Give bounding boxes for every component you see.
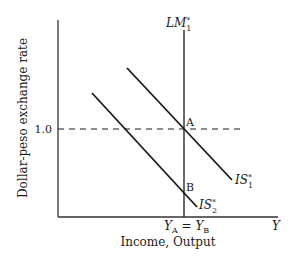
y-axis-label: Dollar-peso exchange rate	[16, 38, 30, 198]
point-b-label: B	[186, 181, 194, 194]
is-lm-diagram: Dollar-peso exchange rate 1.0 LM*1 IS*1 …	[0, 0, 294, 261]
x-axis-end-label: Y	[272, 219, 281, 233]
is2-curve	[92, 93, 197, 207]
is1-curve	[127, 68, 232, 180]
is1-label: IS*1	[234, 173, 253, 190]
x-axis-label: Income, Output	[120, 235, 215, 249]
x-tick-label: YA = YB	[164, 219, 209, 235]
lm1-label: LM*1	[165, 16, 191, 33]
point-a-label: A	[185, 116, 195, 129]
is2-label: IS*2	[198, 198, 217, 215]
y-tick-label: 1.0	[35, 123, 53, 136]
